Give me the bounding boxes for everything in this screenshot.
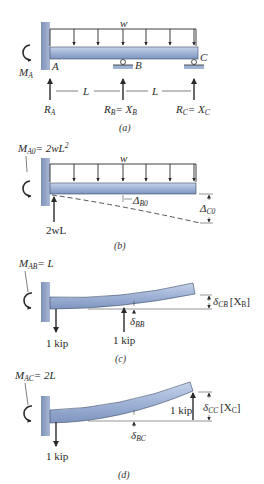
load-label: w (120, 152, 128, 164)
roller-support-b (113, 60, 133, 70)
reaction-label: 1 kip (46, 337, 69, 349)
caption-a: (a) (119, 122, 131, 134)
delta-bc-label: δBC (131, 429, 147, 443)
point-c-label: C (200, 51, 208, 63)
beam (50, 183, 196, 194)
moment-arrow (24, 406, 32, 421)
span-1-label: L (82, 85, 89, 97)
wall (41, 22, 50, 70)
reaction-a-label: RA (43, 103, 56, 117)
delta-cb-label: δCB[XB] (213, 295, 250, 309)
load-label: 1 kip (113, 334, 136, 346)
caption-b: (b) (114, 240, 126, 252)
deflected-beam (50, 283, 195, 309)
reaction-label: 2wL (46, 224, 66, 236)
caption-d: (d) (118, 469, 130, 481)
reaction-b-label: RB= XB (103, 103, 137, 117)
caption-c: (c) (115, 353, 127, 365)
moment-label: MA (18, 66, 33, 80)
reaction-label: 1 kip (46, 450, 69, 462)
load-label: 1 kip (170, 404, 193, 416)
moment-label: MAC= 2L (14, 369, 56, 383)
reaction-c-label: RC= XC (175, 103, 211, 117)
wall (41, 396, 50, 436)
wall (41, 158, 50, 206)
beam (50, 47, 198, 59)
delta-c0-label: ΔC0 (199, 202, 215, 216)
point-a-label: A (51, 60, 59, 72)
moment-arrow (23, 181, 31, 196)
wall (41, 282, 50, 322)
delta-b0-label: ΔB0 (132, 194, 148, 208)
distributed-load (50, 29, 196, 46)
figure-b: MA0= 2wL2 w 2wL ΔB0 ΔC0 (b) (17, 141, 215, 252)
moment-arrow (24, 293, 32, 308)
point-b-label: B (135, 59, 142, 71)
moment-arrow (23, 45, 31, 60)
span-2-label: L (151, 85, 158, 97)
load-label: w (120, 17, 128, 29)
figure-a: w A B C MA L L RA RB= X (18, 17, 211, 134)
distributed-load (50, 164, 196, 182)
beam-diagram: w A B C MA L L RA RB= X (0, 0, 264, 484)
moment-label: MA0= 2wL2 (17, 141, 69, 156)
delta-bb-label: δBB (130, 315, 145, 329)
deflected-beam (50, 382, 193, 423)
figure-c: MAB= L 1 kip 1 kip δBB δCB[XB] (c) (18, 257, 250, 365)
figure-d: MAC= 2L 1 kip 1 kip δBC δCC[XC] (d) (14, 369, 240, 481)
moment-label: MAB= L (18, 257, 54, 271)
delta-cc-label: δCC[XC] (203, 401, 240, 415)
